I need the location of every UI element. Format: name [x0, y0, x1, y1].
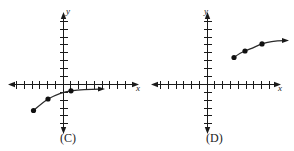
data-point	[68, 88, 73, 93]
graph-option-d[interactable]: y x (D)	[147, 0, 294, 151]
x-axis-d	[151, 81, 281, 89]
y-axis-d	[204, 12, 212, 134]
coordinate-plane-d	[147, 0, 294, 151]
data-point	[45, 96, 50, 101]
panel-caption-d: (D)	[206, 132, 223, 144]
curve-group-d	[231, 38, 289, 60]
coordinate-plane-c	[0, 0, 147, 151]
x-axis-label-d: x	[278, 84, 282, 93]
x-axis-left-arrowhead-d	[151, 82, 158, 87]
data-point	[242, 48, 247, 53]
curve-path-d	[234, 41, 284, 58]
data-point	[259, 41, 264, 46]
graph-option-c[interactable]: y x (C)	[0, 0, 147, 151]
x-axis-left-arrowhead-c	[8, 82, 15, 87]
data-point	[231, 55, 236, 60]
figure-container: y x (C)	[0, 0, 294, 151]
x-axis-c	[8, 81, 139, 89]
x-axis-label-c: x	[136, 84, 140, 93]
panel-caption-c: (C)	[60, 132, 76, 144]
y-axis-c	[60, 12, 68, 134]
y-axis-label-d: y	[204, 7, 208, 16]
curve-group-c	[31, 86, 105, 113]
curve-arrowhead-c	[98, 86, 105, 91]
curve-arrowhead-d	[282, 38, 289, 43]
y-axis-label-c: y	[66, 7, 70, 16]
data-point	[31, 108, 36, 113]
